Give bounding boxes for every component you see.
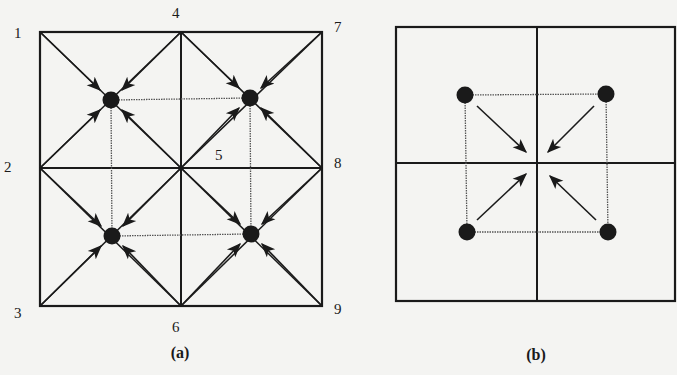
node-label-2: 2: [4, 159, 12, 175]
panel-b-grid-frame: [396, 27, 675, 301]
panel-a-arrow-icon: [181, 168, 240, 224]
panel-a-caption: (a): [171, 344, 190, 362]
panel-b-arrow-icon: [477, 174, 526, 220]
node-label-5: 5: [215, 147, 223, 163]
panel-a-arrow-icon: [261, 108, 322, 168]
node-label-8: 8: [334, 155, 342, 171]
panel-a-node-labels: 123456789: [4, 5, 342, 335]
panel-a-dotted-link: [250, 98, 251, 234]
node-label-6: 6: [172, 319, 180, 335]
panel-b-arrow-icon: [477, 106, 526, 152]
panel-a-arrow-icon: [122, 110, 181, 168]
panel-a-cell-center-dot: [242, 90, 259, 107]
panel-a-arrow-icon: [181, 244, 240, 306]
panel-a-arrow-icon: [40, 246, 101, 306]
panel-a-arrow-icon: [181, 32, 239, 88]
panel-a-arrow-icon: [262, 168, 322, 224]
panel-a-arrow-icon: [40, 32, 100, 90]
node-label-9: 9: [334, 301, 342, 317]
panel-b-cell-center-dot: [600, 224, 617, 241]
node-label-3: 3: [14, 305, 22, 321]
panel-b-dotted-link: [465, 94, 606, 95]
panel-a-arrow-icon: [40, 168, 101, 226]
node-label-7: 7: [334, 19, 342, 35]
panel-a-arrow-icon: [122, 32, 181, 90]
mesh-diagram: 123456789 (a) (b): [0, 0, 677, 375]
panel-b-arrow-icon: [548, 106, 594, 152]
panel-a-arrow-icon: [181, 108, 239, 168]
panel-b-caption: (b): [526, 346, 546, 364]
panel-a-arrow-icon: [123, 168, 181, 226]
panel-b-cell-center-dot: [457, 87, 474, 104]
panel-b-cell-center-dot: [598, 86, 615, 103]
node-label-4: 4: [172, 5, 180, 21]
node-label-1: 1: [14, 25, 22, 41]
panel-a-arrow-icon: [261, 32, 322, 88]
panel-a-arrow-icon: [40, 110, 100, 168]
panel-a-arrow-icon: [123, 246, 181, 306]
panel-a-dotted-link: [111, 100, 112, 236]
panel-a-cell-center-dot: [103, 92, 120, 109]
panel-b-dual-grid: (b): [396, 27, 675, 364]
panel-a-cell-center-dot: [104, 228, 121, 245]
panel-b-arrow-icon: [550, 176, 596, 220]
panel-a-cell-center-dot: [243, 226, 260, 243]
panel-b-cell-center-dot: [459, 224, 476, 241]
panel-a-arrow-icon: [262, 244, 322, 306]
panel-a-primal-grid: 123456789 (a): [4, 5, 342, 362]
